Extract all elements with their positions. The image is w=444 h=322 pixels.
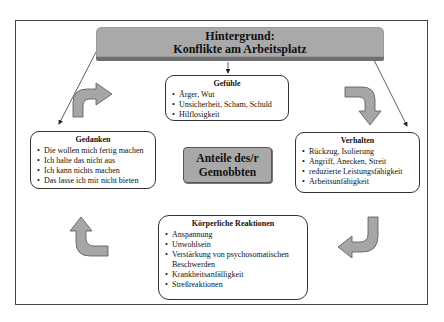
gefuehle-list: Ärger, Wut Unsicherheit, Scham, Schuld H… (172, 90, 282, 120)
verhalten-list: Rückzug, Isolierung Angriff, Anecken, St… (302, 147, 413, 187)
list-item: Krankheitsanfälligkeit (165, 270, 301, 280)
gefuehle-title: Gefühle (172, 79, 282, 89)
list-item: Verstärkung von psychosomatischen Beschw… (165, 250, 301, 270)
gedanken-title: Gedanken (37, 135, 149, 145)
center-box-anteile: Anteile des/r Gemobbten (183, 147, 272, 183)
list-item: Streßreaktionen (165, 280, 301, 290)
list-item: Unwohlsein (165, 240, 301, 250)
list-item: Unsicherheit, Scham, Schuld (172, 100, 282, 110)
koerper-list: Anspannung Unwohlsein Verstärkung von ps… (165, 230, 301, 290)
list-item: Die wollen mich fertig machen (37, 146, 149, 156)
list-item: Hilflosigkeit (172, 110, 282, 120)
gedanken-list: Die wollen mich fertig machen Ich halte … (37, 146, 149, 186)
list-item: Angriff, Anecken, Streit (302, 157, 413, 167)
list-item: Ich halte das nicht aus (37, 156, 149, 166)
box-koerperliche-reaktionen: Körperliche Reaktionen Anspannung Unwohl… (158, 215, 308, 300)
list-item: Arbeitsunfähigkeit (302, 177, 413, 187)
list-item: reduzierte Leistungsfähigkeit (302, 167, 413, 177)
list-item: Anspannung (165, 230, 301, 240)
verhalten-title: Verhalten (302, 136, 413, 146)
center-line1: Anteile des/r (184, 151, 271, 165)
header-banner: Hintergrund: Konflikte am Arbeitsplatz (96, 27, 384, 57)
box-gedanken: Gedanken Die wollen mich fertig machen I… (30, 131, 156, 189)
list-item: Ich kann nichts machen (37, 166, 149, 176)
list-item: Das lasse ich mir nicht bieten (37, 176, 149, 186)
center-line2: Gemobbten (184, 165, 271, 179)
koerper-title: Körperliche Reaktionen (165, 219, 301, 229)
header-line2: Konflikte am Arbeitsplatz (96, 43, 384, 56)
list-item: Rückzug, Isolierung (302, 147, 413, 157)
box-verhalten: Verhalten Rückzug, Isolierung Angriff, A… (295, 132, 420, 193)
list-item: Ärger, Wut (172, 90, 282, 100)
box-gefuehle: Gefühle Ärger, Wut Unsicherheit, Scham, … (165, 75, 289, 121)
